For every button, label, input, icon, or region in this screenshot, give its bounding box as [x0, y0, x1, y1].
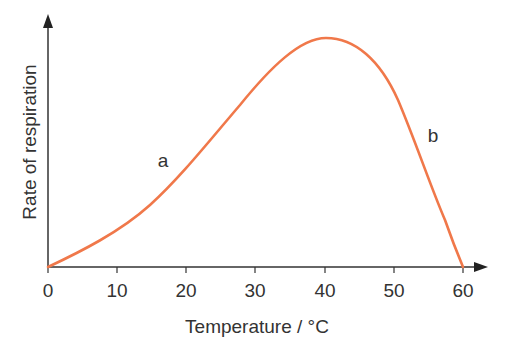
- x-tick-label: 30: [244, 280, 265, 301]
- y-axis-arrow-icon: [43, 14, 53, 28]
- annotation-a: a: [158, 150, 169, 171]
- x-tick-label: 40: [314, 280, 335, 301]
- respiration-curve: [48, 38, 463, 267]
- x-axis-arrow-icon: [474, 262, 488, 272]
- x-axis-title: Temperature / °C: [185, 316, 329, 337]
- respiration-temperature-chart: 0 10 20 30 40 50 60 Temperature / °C Rat…: [0, 0, 506, 353]
- x-tick-label: 60: [452, 280, 473, 301]
- x-ticks: [48, 267, 463, 273]
- x-tick-labels: 0 10 20 30 40 50 60: [43, 280, 474, 301]
- x-tick-label: 20: [175, 280, 196, 301]
- x-tick-label: 50: [383, 280, 404, 301]
- annotation-b: b: [428, 125, 439, 146]
- y-axis-title: Rate of respiration: [19, 64, 40, 219]
- x-tick-label: 10: [106, 280, 127, 301]
- x-tick-label: 0: [43, 280, 54, 301]
